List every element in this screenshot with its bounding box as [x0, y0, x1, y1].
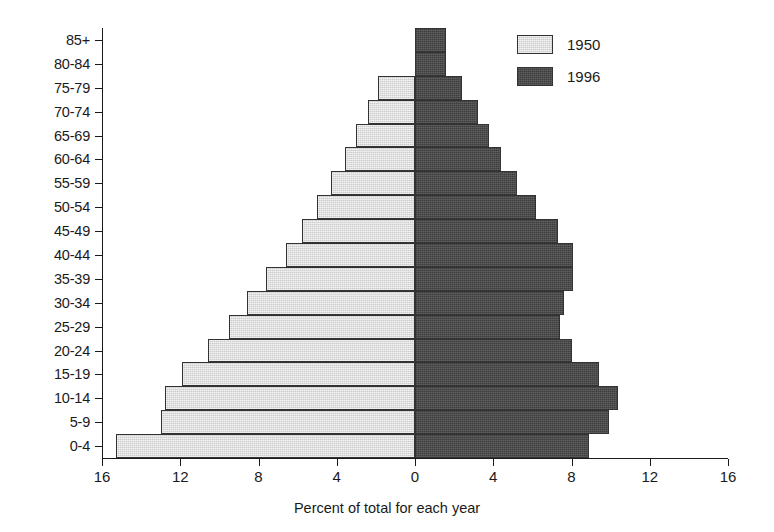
bar-1996-25-29 [415, 315, 560, 339]
pyramid-row [102, 76, 728, 100]
y-axis-label-50-54: 50-54 [54, 200, 90, 215]
x-axis-label: 4 [473, 469, 513, 485]
bar-1996-55-59 [415, 171, 517, 195]
y-axis-label-55-59: 55-59 [54, 176, 90, 191]
x-axis-tick [102, 459, 103, 466]
y-axis-tick [95, 40, 102, 41]
y-axis-tick [95, 279, 102, 280]
pyramid-row [102, 291, 728, 315]
x-axis-label: 16 [708, 469, 748, 485]
pyramid-row [102, 339, 728, 363]
x-axis-label: 8 [239, 469, 279, 485]
x-axis-tick [259, 459, 260, 466]
legend-label-1950: 1950 [567, 36, 600, 53]
bar-1996-45-49 [415, 219, 558, 243]
bar-1996-30-34 [415, 291, 564, 315]
bar-1950-25-29 [229, 315, 415, 339]
y-axis-tick [95, 398, 102, 399]
y-axis-tick [95, 64, 102, 65]
x-axis-tick [728, 459, 729, 466]
pyramid-row [102, 243, 728, 267]
bar-1996-20-24 [415, 339, 572, 363]
bar-1950-50-54 [317, 195, 415, 219]
legend-entry-1996: 1996 [517, 60, 600, 92]
pyramid-row [102, 386, 728, 410]
dark-gray-swatch-icon [517, 67, 553, 86]
legend-label-1996: 1996 [567, 68, 600, 85]
pyramid-row [102, 124, 728, 148]
pyramid-row [102, 28, 728, 52]
y-axis-tick [95, 112, 102, 113]
y-axis-tick [95, 327, 102, 328]
bar-1950-10-14 [165, 386, 415, 410]
y-axis-label-35-39: 35-39 [54, 272, 90, 287]
bar-1950-35-39 [266, 267, 415, 291]
y-axis-tick [95, 374, 102, 375]
bar-1950-0-4 [116, 434, 415, 458]
bar-1950-5-9 [161, 410, 415, 434]
y-axis-label-85+: 85+ [66, 33, 90, 48]
y-axis-tick [95, 231, 102, 232]
bar-1950-65-69 [356, 124, 415, 148]
pyramid-row [102, 267, 728, 291]
bar-1996-15-19 [415, 362, 599, 386]
bar-1950-75-79 [378, 76, 415, 100]
x-axis-label: 4 [317, 469, 357, 485]
bar-1950-60-64 [345, 147, 415, 171]
y-axis-label-15-19: 15-19 [54, 367, 90, 382]
bar-1996-40-44 [415, 243, 573, 267]
y-axis-label-5-9: 5-9 [70, 415, 90, 430]
bar-1950-15-19 [182, 362, 415, 386]
pyramid-row [102, 362, 728, 386]
bar-1950-20-24 [208, 339, 415, 363]
x-axis-tick [572, 459, 573, 466]
bar-1996-35-39 [415, 267, 573, 291]
chart-legend: 1950 1996 [517, 28, 600, 92]
x-axis-tick [180, 459, 181, 466]
y-axis-label-40-44: 40-44 [54, 248, 90, 263]
population-pyramid-chart: 0-45-910-1415-1920-2425-2930-3435-3940-4… [0, 0, 774, 532]
pyramid-row [102, 315, 728, 339]
light-gray-swatch-icon [517, 35, 553, 54]
x-axis-label: 12 [630, 469, 670, 485]
pyramid-row [102, 171, 728, 195]
y-axis-label-80-84: 80-84 [54, 57, 90, 72]
y-axis-tick [95, 183, 102, 184]
pyramid-row [102, 52, 728, 76]
y-axis-label-0-4: 0-4 [70, 439, 90, 454]
bar-1996-65-69 [415, 124, 489, 148]
y-axis-tick [95, 255, 102, 256]
y-axis-tick [95, 351, 102, 352]
pyramid-row [102, 147, 728, 171]
bar-1996-85+ [415, 28, 446, 52]
y-axis-label-65-69: 65-69 [54, 129, 90, 144]
x-axis-label: 8 [552, 469, 592, 485]
y-axis-label-10-14: 10-14 [54, 391, 90, 406]
pyramid-row [102, 100, 728, 124]
y-axis-label-20-24: 20-24 [54, 344, 90, 359]
y-axis-label-45-49: 45-49 [54, 224, 90, 239]
x-axis-title: Percent of total for each year [0, 500, 774, 516]
bar-1950-55-59 [331, 171, 415, 195]
y-axis-label-75-79: 75-79 [54, 81, 90, 96]
y-axis-label-30-34: 30-34 [54, 296, 90, 311]
y-axis-tick [95, 422, 102, 423]
x-axis-tick [337, 459, 338, 466]
y-axis-tick [95, 303, 102, 304]
legend-entry-1950: 1950 [517, 28, 600, 60]
pyramid-row [102, 434, 728, 458]
x-axis-tick [650, 459, 651, 466]
bar-1996-80-84 [415, 52, 446, 76]
bar-1996-5-9 [415, 410, 609, 434]
x-axis-label: 0 [395, 469, 435, 485]
bar-1950-45-49 [302, 219, 415, 243]
bar-1996-50-54 [415, 195, 536, 219]
bar-1996-75-79 [415, 76, 462, 100]
bar-1996-0-4 [415, 434, 589, 458]
y-axis-label-70-74: 70-74 [54, 105, 90, 120]
y-axis-tick [95, 136, 102, 137]
bar-1996-10-14 [415, 386, 618, 410]
pyramid-row [102, 195, 728, 219]
x-axis-tick [415, 459, 416, 466]
y-axis-tick [95, 207, 102, 208]
